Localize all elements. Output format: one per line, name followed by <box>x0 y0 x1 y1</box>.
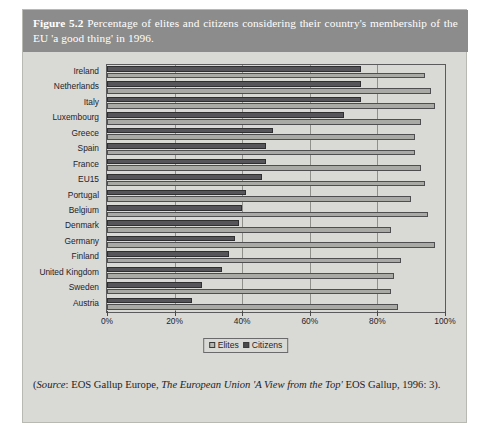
bar-row <box>107 281 445 296</box>
y-axis-label-france: France <box>73 157 99 172</box>
y-axis-label-portugal: Portugal <box>68 188 99 203</box>
source-label: Source <box>37 379 66 390</box>
plot-frame <box>106 64 446 313</box>
y-axis-label-austria: Austria <box>73 296 99 311</box>
figure-container: Figure 5.2 Percentage of elites and citi… <box>22 9 467 423</box>
source-title: The European Union 'A View from the Top' <box>161 379 343 390</box>
y-axis-label-germany: Germany <box>65 234 99 249</box>
bar-row <box>107 189 445 204</box>
bar-row <box>107 173 445 188</box>
source-text-a: : EOS Gallup Europe, <box>66 379 162 390</box>
legend-item-citizens: Citizens <box>243 340 283 350</box>
bar-elites-france <box>107 165 421 171</box>
bar-elites-austria <box>107 304 398 310</box>
x-axis-label-20: 20% <box>166 316 183 326</box>
y-axis-label-spain: Spain <box>78 141 99 156</box>
y-axis-label-sweden: Sweden <box>69 280 99 295</box>
bar-row <box>107 65 445 80</box>
bar-row <box>107 235 445 250</box>
figure-caption-text: Percentage of elites and citizens consid… <box>33 17 458 44</box>
bar-row <box>107 111 445 126</box>
y-axis-label-luxembourg: Luxembourg <box>52 110 99 125</box>
bar-citizens-greece <box>107 128 273 134</box>
bar-rows <box>107 65 445 312</box>
y-axis-label-belgium: Belgium <box>69 203 99 218</box>
bar-elites-eu15 <box>107 181 425 187</box>
legend-label-citizens: Citizens <box>252 340 283 350</box>
source-note: (Source: EOS Gallup Europe, The European… <box>33 378 457 392</box>
bar-citizens-germany <box>107 236 235 242</box>
bar-citizens-denmark <box>107 220 239 226</box>
bar-row <box>107 96 445 111</box>
bar-citizens-italy <box>107 97 361 103</box>
bar-row <box>107 80 445 95</box>
chart-area: IrelandNetherlandsItalyLuxembourgGreeceS… <box>28 54 463 374</box>
source-text-b: EOS Gallup, 1996: 3). <box>343 379 441 390</box>
bar-citizens-belgium <box>107 205 242 211</box>
legend-swatch-citizens-icon <box>243 342 249 348</box>
legend-label-elites: Elites <box>218 340 239 350</box>
bar-row <box>107 158 445 173</box>
x-axis-label-0: 0% <box>101 316 113 326</box>
bar-row <box>107 142 445 157</box>
x-axis-labels: 0%20%40%60%80%100% <box>106 316 447 330</box>
y-axis-label-ireland: Ireland <box>73 64 99 79</box>
bar-elites-belgium <box>107 212 428 218</box>
bar-citizens-sweden <box>107 282 202 288</box>
bar-row <box>107 250 445 265</box>
y-axis-labels: IrelandNetherlandsItalyLuxembourgGreeceS… <box>28 64 103 313</box>
y-axis-label-denmark: Denmark <box>65 218 99 233</box>
figure-caption: Figure 5.2 Percentage of elites and citi… <box>23 10 468 52</box>
y-axis-label-eu15: EU15 <box>78 172 99 187</box>
bar-row <box>107 297 445 312</box>
bar-citizens-united-kingdom <box>107 267 222 273</box>
bar-citizens-luxembourg <box>107 112 344 118</box>
x-axis-label-80: 80% <box>369 316 386 326</box>
x-axis-label-40: 40% <box>234 316 251 326</box>
bar-citizens-france <box>107 159 266 165</box>
bar-citizens-eu15 <box>107 174 262 180</box>
legend-item-elites: Elites <box>209 340 239 350</box>
y-axis-label-netherlands: Netherlands <box>54 79 99 94</box>
bar-citizens-portugal <box>107 190 246 196</box>
chart-legend: Elites Citizens <box>203 338 289 353</box>
bar-row <box>107 204 445 219</box>
bar-elites-netherlands <box>107 88 431 94</box>
y-axis-label-greece: Greece <box>72 126 99 141</box>
bar-elites-germany <box>107 242 435 248</box>
bar-elites-greece <box>107 134 415 140</box>
bar-row <box>107 266 445 281</box>
bar-elites-portugal <box>107 196 411 202</box>
bar-elites-sweden <box>107 289 391 295</box>
figure-number: Figure <box>33 17 65 29</box>
bar-elites-italy <box>107 103 435 109</box>
bar-elites-ireland <box>107 73 425 79</box>
legend-swatch-elites-icon <box>209 342 215 348</box>
bar-citizens-spain <box>107 143 266 149</box>
bar-elites-spain <box>107 150 415 156</box>
bar-row <box>107 127 445 142</box>
y-axis-label-finland: Finland <box>72 249 99 264</box>
bar-row <box>107 219 445 234</box>
bar-citizens-austria <box>107 298 192 304</box>
bar-citizens-ireland <box>107 66 361 72</box>
bar-elites-united-kingdom <box>107 273 394 279</box>
y-axis-label-italy: Italy <box>84 95 99 110</box>
x-axis-label-60: 60% <box>301 316 318 326</box>
bar-citizens-finland <box>107 251 229 257</box>
x-axis-label-100: 100% <box>434 316 455 326</box>
bar-elites-denmark <box>107 227 391 233</box>
figure-number-value: 5.2 <box>69 17 83 29</box>
bar-elites-finland <box>107 258 401 264</box>
y-axis-label-united-kingdom: United Kingdom <box>39 265 99 280</box>
bar-citizens-netherlands <box>107 81 361 87</box>
bar-elites-luxembourg <box>107 119 421 125</box>
